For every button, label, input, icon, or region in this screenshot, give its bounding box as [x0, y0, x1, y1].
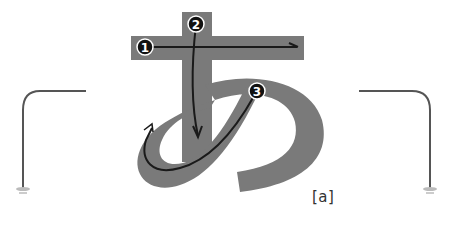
stroke-order-diagram: 1 2 3 — [0, 0, 451, 227]
stroke-2-number: 2 — [192, 18, 200, 32]
stroke-3-badge: 3 — [249, 83, 265, 99]
stroke-1-badge: 1 — [137, 39, 153, 55]
stroke-2-badge: 2 — [188, 16, 204, 32]
stroke-1-number: 1 — [141, 41, 149, 55]
left-lamp-icon — [16, 91, 86, 193]
right-lamp-icon — [359, 91, 437, 193]
hiragana-a-glyph — [131, 12, 324, 192]
stroke-3-number: 3 — [253, 85, 261, 99]
caption-label: [a] — [312, 188, 334, 206]
